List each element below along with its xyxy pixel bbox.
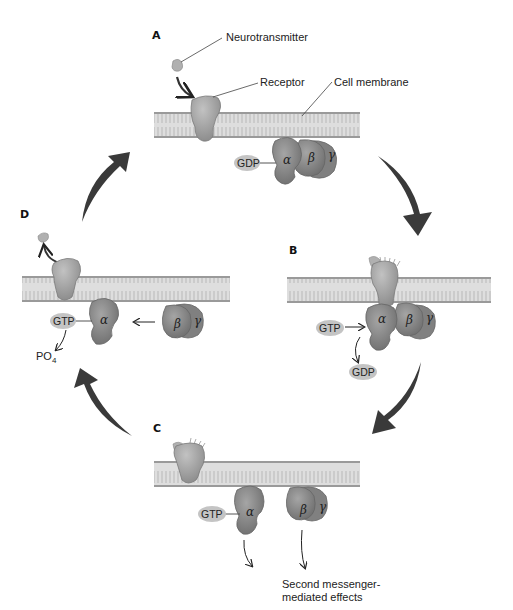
gamma-label-d: γ: [194, 314, 202, 328]
gtp-label-c: GTP: [201, 508, 223, 520]
g-protein-cycle-diagram: A Neurotransmitter Receptor Cell membran…: [0, 0, 513, 610]
panel-label-c: C: [153, 422, 161, 435]
g-alpha-icon: [366, 304, 397, 350]
beta-label-a: β: [307, 151, 315, 165]
cell-membrane-d: [22, 277, 230, 301]
gtp-label-d: GTP: [53, 315, 75, 327]
panel-a: A Neurotransmitter Receptor Cell membran…: [152, 29, 409, 184]
cycle-arrow-c-to-d: [74, 368, 132, 436]
phosphate-label: PO4: [36, 350, 57, 365]
cell-membrane-a: [154, 113, 360, 137]
effects-label-line2: mediated effects: [282, 591, 363, 603]
gdp-label-a: GDP: [237, 157, 260, 169]
gdp-label-b: GDP: [352, 366, 375, 378]
beta-label-b: β: [405, 313, 413, 327]
panel-label-d: D: [20, 208, 29, 221]
panel-d: D α GTP PO4 β γ: [20, 208, 230, 365]
gamma-label-b: γ: [426, 311, 434, 325]
panel-b: B α β γ GTP GDP: [287, 244, 491, 380]
panel-c: C α GTP β γ Second messenger- mediated e…: [153, 422, 381, 603]
alpha-label-d: α: [100, 313, 108, 327]
cycle-arrow-b-to-c: [372, 362, 421, 434]
callout-receptor: Receptor: [260, 76, 305, 88]
alpha-label-a: α: [283, 153, 291, 167]
alpha-label-b: α: [378, 312, 386, 326]
neurotransmitter-icon: [172, 59, 183, 71]
gamma-label-a: γ: [328, 148, 336, 162]
beta-label-c: β: [299, 503, 307, 517]
gtp-label-b: GTP: [319, 322, 341, 334]
neurotransmitter-released-icon: [38, 233, 49, 242]
gamma-label-c: γ: [319, 500, 327, 514]
alpha-label-c: α: [246, 505, 254, 519]
cycle-arrow-a-to-b: [378, 156, 432, 236]
panel-label-a: A: [152, 29, 161, 42]
callout-cell-membrane: Cell membrane: [334, 76, 409, 88]
cycle-arrow-d-to-a: [82, 152, 130, 222]
beta-label-d: β: [173, 317, 181, 331]
effects-label-line1: Second messenger-: [282, 578, 381, 590]
panel-label-b: B: [289, 244, 297, 257]
callout-neurotransmitter: Neurotransmitter: [226, 31, 308, 43]
